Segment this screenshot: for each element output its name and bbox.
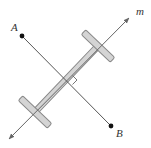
point-a <box>20 34 25 39</box>
label-m: m <box>136 5 144 17</box>
label-b: B <box>116 127 123 139</box>
line-m <box>9 18 129 139</box>
diagram-canvas: A B m <box>0 0 151 148</box>
point-b <box>109 124 114 129</box>
label-a: A <box>10 21 18 33</box>
t-square <box>18 30 114 128</box>
t-square-shaft <box>33 44 101 115</box>
